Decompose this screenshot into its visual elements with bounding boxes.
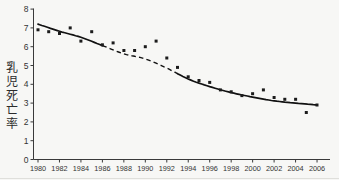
chart-figure: 乳児死亡率 0123456781980198219841986198819901… bbox=[0, 0, 339, 180]
y-tick-label: 2 bbox=[24, 117, 29, 127]
data-point bbox=[112, 41, 115, 44]
data-point bbox=[230, 90, 233, 93]
x-tick-label: 2006 bbox=[309, 164, 325, 173]
data-point bbox=[155, 40, 158, 43]
data-point bbox=[240, 94, 243, 97]
data-point bbox=[251, 92, 254, 95]
data-point bbox=[305, 111, 308, 114]
data-point bbox=[176, 66, 179, 69]
data-point bbox=[90, 30, 93, 33]
y-tick-label: 7 bbox=[24, 23, 29, 33]
x-tick-label: 1980 bbox=[30, 164, 46, 173]
data-point bbox=[144, 45, 147, 48]
x-tick-label: 1996 bbox=[202, 164, 218, 173]
x-tick-label: 2002 bbox=[266, 164, 282, 173]
x-tick-label: 1994 bbox=[180, 164, 196, 173]
y-tick-label: 8 bbox=[24, 4, 29, 14]
axis-lines bbox=[34, 9, 331, 160]
data-point bbox=[133, 49, 136, 52]
x-tick-label: 2000 bbox=[245, 164, 261, 173]
x-tick-label: 1998 bbox=[223, 164, 239, 173]
data-point bbox=[101, 43, 104, 46]
bottom-rule-divider bbox=[0, 178, 339, 179]
data-point bbox=[165, 57, 168, 60]
data-point bbox=[219, 88, 222, 91]
x-tick-label: 1982 bbox=[51, 164, 67, 173]
y-tick-label: 6 bbox=[24, 42, 29, 52]
trend-line-dashed bbox=[102, 46, 177, 74]
data-point bbox=[198, 79, 201, 82]
x-tick-label: 1992 bbox=[159, 164, 175, 173]
data-point bbox=[208, 81, 211, 84]
y-tick-label: 5 bbox=[24, 61, 29, 71]
data-point bbox=[79, 40, 82, 43]
data-point bbox=[47, 30, 50, 33]
data-point bbox=[58, 32, 61, 35]
y-tick-label: 3 bbox=[24, 98, 29, 108]
x-tick-label: 2004 bbox=[287, 164, 303, 173]
y-tick-label: 0 bbox=[24, 155, 29, 165]
data-point bbox=[69, 26, 72, 29]
y-tick-label: 1 bbox=[24, 136, 29, 146]
y-tick-label: 4 bbox=[24, 79, 29, 89]
data-point bbox=[283, 98, 286, 101]
data-point bbox=[316, 104, 319, 107]
data-point bbox=[122, 49, 125, 52]
data-point bbox=[273, 96, 276, 99]
data-point bbox=[187, 75, 190, 78]
x-tick-label: 1986 bbox=[94, 164, 110, 173]
chart-canvas: 0123456781980198219841986198819901992199… bbox=[0, 0, 339, 180]
data-point bbox=[294, 98, 297, 101]
x-tick-label: 1990 bbox=[137, 164, 153, 173]
data-point bbox=[262, 88, 265, 91]
data-point bbox=[37, 28, 40, 31]
x-tick-label: 1984 bbox=[73, 164, 89, 173]
x-tick-label: 1988 bbox=[116, 164, 132, 173]
